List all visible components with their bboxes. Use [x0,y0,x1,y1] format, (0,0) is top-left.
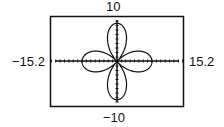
graph-window [0,0,224,127]
